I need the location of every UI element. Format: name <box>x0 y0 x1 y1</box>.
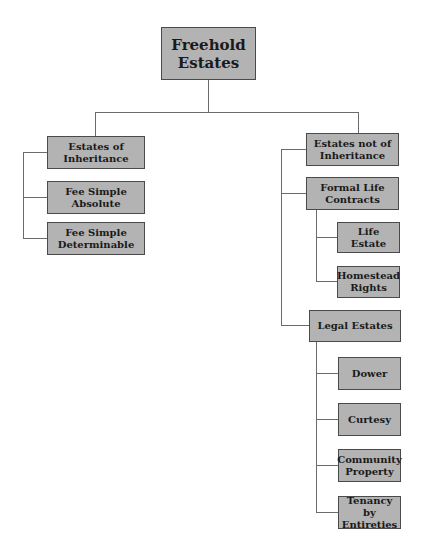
connector-root-horizontal <box>95 112 359 113</box>
freehold-estates-diagram: Freehold Estates Estates of Inheritance … <box>0 0 427 554</box>
connector-formal-life-spine <box>316 209 317 282</box>
node-estates-not-of-inheritance: Estates not of Inheritance <box>306 133 399 166</box>
connector-right-to-formal-life <box>281 193 306 194</box>
node-life-estate: Life Estate <box>337 222 400 253</box>
connector-to-homestead <box>316 281 337 282</box>
node-fee-simple-absolute: Fee Simple Absolute <box>47 181 145 214</box>
node-tenancy-by-entireties: Tenancy by Entireties <box>338 496 401 529</box>
node-formal-life-contracts: Formal Life Contracts <box>306 177 399 210</box>
connector-to-community-property <box>316 465 338 466</box>
connector-left-to-fee-determinable <box>23 238 47 239</box>
node-legal-estates: Legal Estates <box>309 310 401 342</box>
connector-left-branch-down <box>95 112 96 136</box>
connector-right-branch-down <box>358 112 359 133</box>
node-curtesy: Curtesy <box>338 403 401 436</box>
connector-to-curtesy <box>316 419 338 420</box>
node-dower: Dower <box>338 357 401 390</box>
connector-legal-spine <box>316 341 317 513</box>
node-estates-of-inheritance: Estates of Inheritance <box>47 136 145 169</box>
connector-root-down <box>208 80 209 113</box>
connector-right-to-not-inheritance <box>281 149 306 150</box>
node-freehold-estates: Freehold Estates <box>161 27 256 80</box>
connector-to-dower <box>316 373 338 374</box>
connector-right-spine <box>281 149 282 326</box>
connector-to-tenancy <box>316 512 338 513</box>
node-community-property: Community Property <box>338 449 401 482</box>
connector-to-life-estate <box>316 237 337 238</box>
connector-left-to-fee-absolute <box>23 197 47 198</box>
connector-right-to-legal-estates <box>281 325 309 326</box>
node-fee-simple-determinable: Fee Simple Determinable <box>47 222 145 255</box>
connector-left-spine <box>23 152 24 239</box>
connector-left-to-inheritance <box>23 152 47 153</box>
node-homestead-rights: Homestead Rights <box>337 266 400 298</box>
